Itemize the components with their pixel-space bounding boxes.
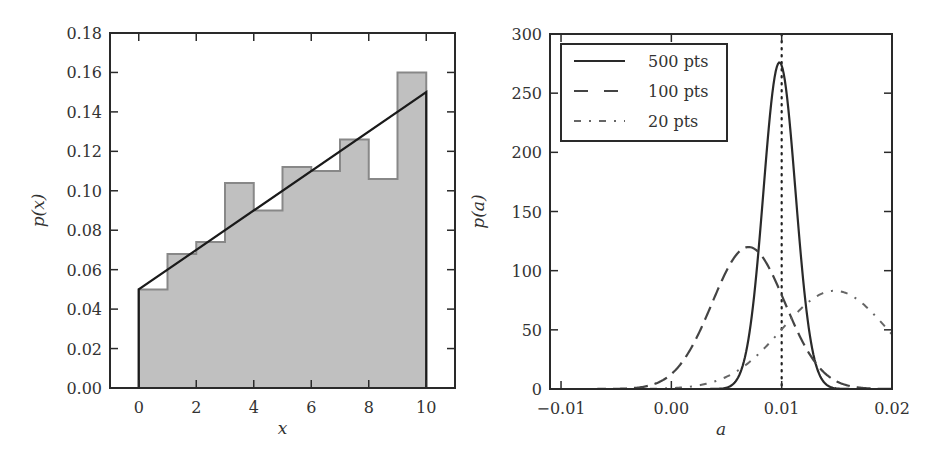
y-tick-label: 200 (511, 143, 542, 162)
y-tick-label: 0.16 (66, 63, 102, 82)
right-x-axis-label: a (716, 419, 726, 439)
x-tick-label: 10 (416, 398, 436, 417)
legend-label-500: 500 pts (648, 52, 709, 71)
x-tick-label: −0.01 (537, 399, 586, 418)
x-tick-label: 0.00 (654, 399, 690, 418)
figure: 0.000.020.040.060.080.100.120.140.160.18… (0, 0, 933, 461)
y-tick-label: 0.00 (66, 379, 102, 398)
x-tick-label: 0 (134, 398, 144, 417)
left-y-axis-label: p(x) (28, 194, 48, 228)
right-y-axis-label: p(a) (468, 194, 488, 228)
x-tick-label: 6 (306, 398, 316, 417)
y-tick-label: 0.18 (66, 24, 102, 43)
curve-20-pts (550, 291, 892, 389)
y-tick-label: 50 (522, 321, 542, 340)
y-tick-label: 300 (511, 25, 542, 44)
y-tick-label: 250 (511, 84, 542, 103)
legend-label-20: 20 pts (648, 112, 698, 131)
x-tick-label: 8 (364, 398, 374, 417)
y-tick-label: 0.04 (66, 300, 102, 319)
y-tick-label: 0.02 (66, 340, 102, 359)
y-tick-label: 0.06 (66, 261, 102, 280)
x-tick-label: 2 (191, 398, 201, 417)
y-tick-label: 0.08 (66, 221, 102, 240)
right-posterior-panel: 050100150200250300 −0.010.000.010.02 a p… (468, 25, 910, 439)
y-tick-label: 100 (511, 262, 542, 281)
y-tick-label: 0.12 (66, 142, 102, 161)
left-x-axis-label: x (278, 418, 288, 438)
y-tick-label: 150 (511, 203, 542, 222)
histogram-step-fill (139, 72, 427, 388)
curve-100-pts (550, 247, 892, 389)
x-tick-label: 0.02 (874, 399, 910, 418)
left-histogram-panel: 0.000.020.040.060.080.100.120.140.160.18… (28, 24, 455, 438)
y-tick-label: 0.14 (66, 103, 102, 122)
x-tick-label: 4 (249, 398, 259, 417)
y-tick-label: 0 (532, 380, 542, 399)
legend: 500 pts 100 pts 20 pts (561, 44, 727, 141)
y-tick-label: 0.10 (66, 182, 102, 201)
x-tick-label: 0.01 (764, 399, 800, 418)
histogram-bars (139, 72, 427, 388)
legend-label-100: 100 pts (648, 82, 709, 101)
